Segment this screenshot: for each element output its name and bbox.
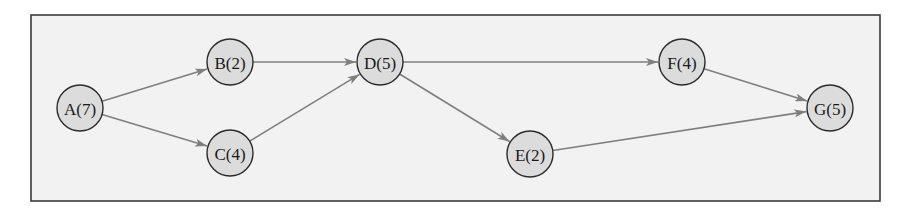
node-a: A(7) (57, 85, 103, 131)
node-f: F(4) (659, 39, 705, 85)
node-c: C(4) (207, 130, 253, 176)
node-label: G(5) (814, 100, 846, 119)
node-label: E(2) (515, 146, 545, 165)
node-label: A(7) (64, 100, 96, 119)
activity-network-diagram: A(7)B(2)C(4)D(5)E(2)F(4)G(5) (0, 0, 901, 214)
node-label: D(5) (364, 54, 396, 73)
node-e: E(2) (507, 131, 553, 177)
node-label: B(2) (214, 54, 245, 73)
node-label: F(4) (667, 54, 696, 73)
node-d: D(5) (357, 39, 403, 85)
node-b: B(2) (207, 39, 253, 85)
node-g: G(5) (807, 85, 853, 131)
node-label: C(4) (214, 145, 245, 164)
